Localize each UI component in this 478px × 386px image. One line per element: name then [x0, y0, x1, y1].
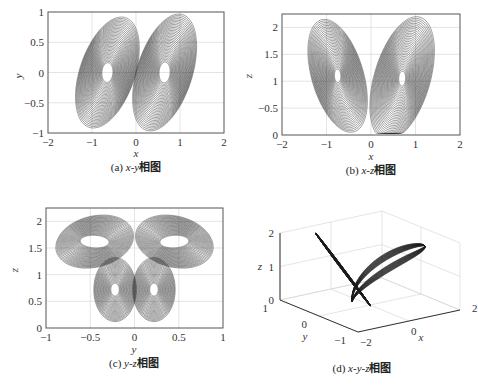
y-tick-label: 1	[39, 6, 45, 18]
y-tick-label: 1.5	[28, 242, 42, 254]
z-tick-label: 0	[269, 294, 275, 306]
y-tick-label: −0.5	[258, 102, 278, 114]
y-tick-label: −0.5	[24, 97, 44, 109]
panel-b-grid	[282, 14, 460, 135]
panel-a-xlabel: x	[133, 147, 139, 159]
panel-d-xlabel: x	[418, 331, 424, 343]
panel-d-caption: (d) x-y-z相图	[333, 361, 392, 375]
y-tick-label: 0	[302, 318, 308, 330]
x-tick-label: 2	[221, 136, 227, 148]
y-tick-label: 0.5	[28, 295, 42, 307]
y-tick-label: 2	[273, 21, 279, 33]
panel-a: −2−1012−1−0.500.51 x y (a) x-y相图	[12, 6, 227, 174]
panel-a-caption: (a) x-y相图	[111, 160, 161, 174]
x-tick-label: −1	[321, 138, 333, 150]
panel-b: −2−10120−0.511.52 x z (b) x-z相图	[242, 14, 463, 177]
x-tick-label: 0.5	[172, 331, 186, 343]
z-tick-label: 2	[269, 227, 275, 239]
x-tick-label: −0.5	[80, 331, 100, 343]
x-tick-label: 0	[411, 325, 417, 337]
y-tick-label: 1	[273, 75, 279, 87]
y-tick-label: 0	[273, 129, 279, 141]
y-tick-label: 0	[37, 322, 43, 334]
figure-canvas: −2−1012−1−0.500.51 x y (a) x-y相图 −2−1012…	[0, 0, 478, 386]
x-tick-label: 2	[457, 138, 463, 150]
panel-c: −1−0.500.5100.511.52 y z (c) y-z相图	[8, 208, 226, 370]
y-tick-label: −1	[334, 334, 346, 346]
panel-b-ylabel: z	[242, 73, 254, 79]
x-tick-label: −2	[360, 336, 372, 348]
x-tick-label: −1	[86, 136, 98, 148]
panel-d: 01210−1−202 z y x (d) x-y-z相图	[257, 211, 478, 375]
y-tick-label: 0	[39, 67, 45, 79]
x-tick-label: 1	[413, 138, 419, 150]
y-tick-label: −1	[32, 127, 44, 139]
x-tick-label: 0	[368, 138, 374, 150]
panel-b-caption: (b) x-z相图	[346, 163, 396, 177]
x-tick-label: 2	[472, 302, 478, 314]
panel-d-zlabel: z	[257, 260, 263, 272]
x-tick-label: 1	[220, 331, 226, 343]
panel-c-ylabel: z	[8, 267, 20, 273]
x-tick-label: 1	[177, 136, 183, 148]
y-tick-label: 2	[37, 215, 43, 227]
panel-c-xlabel: y	[131, 343, 137, 355]
y-tick-label: 1	[37, 269, 43, 281]
y-tick-label: 1	[263, 302, 269, 314]
panel-c-caption: (c) y-z相图	[109, 356, 159, 370]
panel-b-xlabel: x	[368, 150, 374, 162]
panel-d-ylabel: y	[302, 330, 308, 342]
x-tick-label: 0	[132, 331, 138, 343]
y-tick-label: 1.5	[264, 48, 278, 60]
panel-a-ylabel: y	[12, 73, 24, 79]
z-tick-label: 1	[269, 261, 275, 273]
y-tick-label: 0.5	[30, 36, 44, 48]
panel-d-trajectory	[316, 233, 426, 306]
